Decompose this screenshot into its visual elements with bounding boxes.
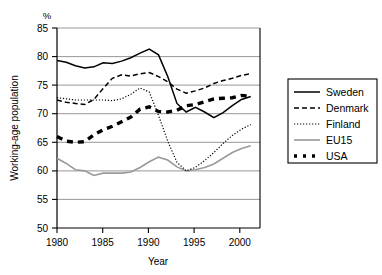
x-tick-label-1985: 1985 (92, 237, 115, 248)
y-tick-label-50: 50 (37, 223, 49, 234)
y-tick-label-55: 55 (37, 194, 49, 205)
y-tick-label-75: 75 (37, 80, 49, 91)
y-tick-label-65: 65 (37, 137, 49, 148)
y-tick-labels: 85 80 75 70 65 60 55 50 (37, 23, 49, 234)
series-line-sweden (57, 49, 251, 118)
x-tickmarks (57, 228, 240, 233)
x-tick-labels: 1980 1985 1990 1995 2000 (46, 237, 251, 248)
data-series (57, 49, 251, 175)
plot-frame (57, 28, 260, 228)
legend: Sweden Denmark Finland EU15 USA (288, 79, 377, 163)
gridlines (57, 28, 260, 199)
line-chart: 85 80 75 70 65 60 55 50 1980 1985 1990 1… (0, 0, 382, 275)
y-tick-label-60: 60 (37, 165, 49, 176)
y-axis-title: Working-age population (9, 75, 20, 180)
x-tick-label-1980: 1980 (46, 237, 69, 248)
x-axis-title: Year (148, 256, 169, 267)
chart-figure: 85 80 75 70 65 60 55 50 1980 1985 1990 1… (0, 0, 382, 275)
legend-label-usa: USA (326, 150, 348, 162)
x-tick-label-1990: 1990 (137, 237, 160, 248)
legend-label-eu15: EU15 (326, 134, 352, 146)
y-tick-label-80: 80 (37, 51, 49, 62)
legend-label-denmark: Denmark (326, 102, 369, 114)
x-tick-label-1995: 1995 (183, 237, 206, 248)
legend-label-finland: Finland (326, 118, 361, 130)
legend-label-sweden: Sweden (326, 86, 364, 98)
y-tickmarks (52, 28, 57, 228)
y-tick-label-85: 85 (37, 23, 49, 34)
y-axis-unit-label: % (43, 10, 52, 21)
x-tick-label-2000: 2000 (229, 237, 252, 248)
series-line-usa (57, 95, 251, 142)
y-tick-label-70: 70 (37, 108, 49, 119)
